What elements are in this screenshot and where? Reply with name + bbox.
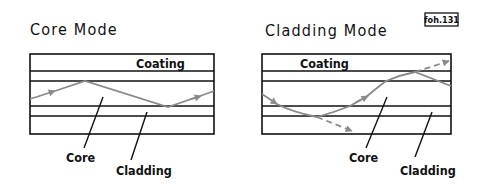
- ray-path-lower: [277, 99, 362, 117]
- cladding-mode-panel: Cladding Mode Coating Cor: [262, 21, 456, 178]
- figure-reference-text: foh.131: [424, 15, 459, 25]
- core-mode-ray: [30, 81, 214, 107]
- cladding-leader-line: [131, 112, 147, 160]
- ray-path-upper: [366, 72, 451, 97]
- core-mode-title: Core Mode: [30, 20, 118, 39]
- cladding-label: Cladding: [400, 163, 456, 178]
- core-leader-line: [84, 97, 103, 148]
- figure-reference-tag: foh.131: [424, 13, 459, 26]
- coating-label: Coating: [300, 56, 349, 71]
- fiber-mode-diagram: foh.131 Core Mode Coating: [0, 0, 486, 185]
- core-mode-panel: Core Mode Coating Core Cladding: [30, 20, 214, 178]
- core-leader-line: [366, 97, 387, 148]
- fiber-outline: [30, 54, 214, 134]
- coating-label: Coating: [136, 56, 185, 71]
- ray-path: [55, 81, 200, 107]
- core-label: Core: [66, 150, 96, 165]
- cladding-mode-title: Cladding Mode: [265, 21, 388, 40]
- cladding-mode-fiber-cross-section: [262, 54, 451, 134]
- core-label: Core: [349, 150, 379, 165]
- refracted-ray-dashed-down: [317, 117, 352, 131]
- ray-path-end: [200, 91, 214, 96]
- ray-arrow-icon: [190, 96, 201, 100]
- diagram-svg: foh.131 Core Mode Coating: [0, 0, 486, 185]
- core-mode-fiber-cross-section: [30, 54, 214, 134]
- cladding-label: Cladding: [116, 163, 172, 178]
- ray-arrow-icon: [30, 91, 55, 99]
- ray-arrow-icon: [262, 94, 277, 104]
- fiber-outline: [262, 54, 451, 134]
